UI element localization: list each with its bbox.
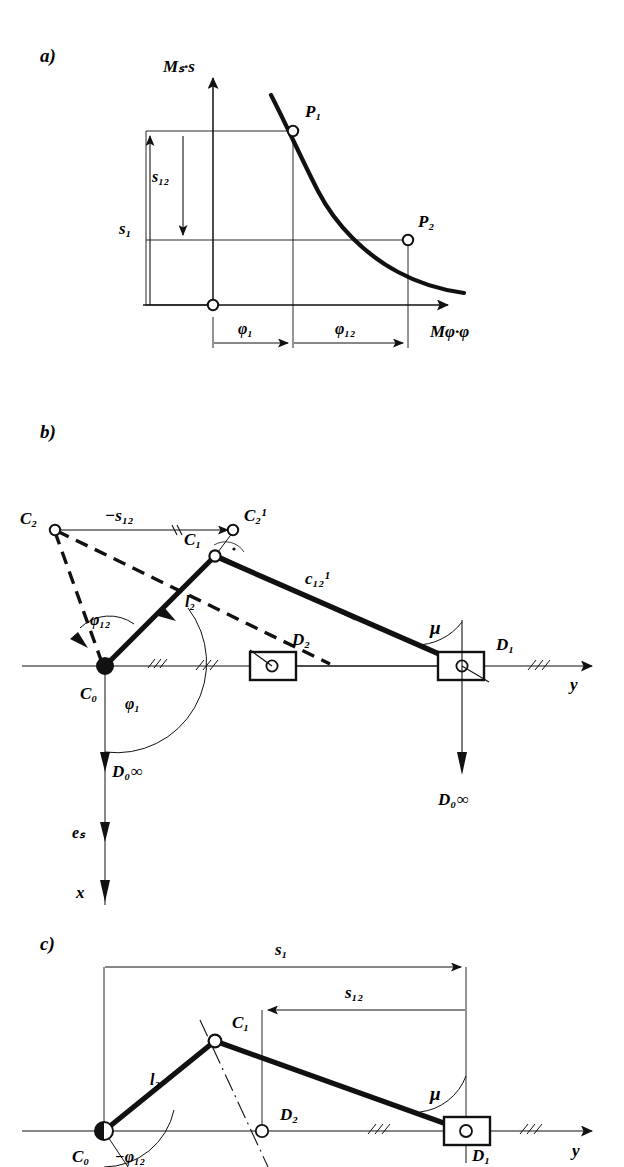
panel-c-pole-c0-label: C₀ xyxy=(72,1147,89,1166)
panel-c-slider-d1-label: D₁ xyxy=(471,1146,490,1165)
panel-b-link-l2-label: l₂ xyxy=(185,593,195,610)
panel-b-force-d0-right-label: D₀∞ xyxy=(437,790,468,809)
panel-a-point-p1-marker xyxy=(288,126,298,136)
panel-c-y-axis-label: y xyxy=(570,1141,580,1160)
panel-b-unit-vector-label: eₛ xyxy=(72,824,86,841)
panel-c-slider-d2-label: D₂ xyxy=(279,1105,298,1124)
panel-a-dim-phi1-label: φ₁ xyxy=(238,320,253,338)
panel-b-y-axis-label: y xyxy=(568,675,578,694)
panel-b-force-d0-left-label: D₀∞ xyxy=(111,762,142,781)
panel-a-y-axis-label: Mₛ·s xyxy=(162,57,195,76)
panel-b-dim-c12prime-label: c₁₂¹ xyxy=(305,569,330,588)
panel-b-angle-phi1-label: φ₁ xyxy=(125,695,140,713)
panel-b-x-axis-label: x xyxy=(75,883,85,902)
panel-a-dim-s1-label: s₁ xyxy=(118,219,132,238)
panel-c-label: c) xyxy=(40,933,55,955)
panel-b-point-c2-marker xyxy=(50,525,60,535)
panel-b-dim-minus-s12-label: −s₁₂ xyxy=(105,506,134,525)
panel-b-label: b) xyxy=(40,421,56,443)
panel-c-angle-minus-phi12-label: −φ₁₂ xyxy=(115,1148,145,1166)
panel-b-angle-mu-label: μ xyxy=(429,617,441,638)
panel-a-dim-phi12-label: φ₁₂ xyxy=(335,320,356,338)
panel-c-pole-c0-marker xyxy=(95,1122,113,1140)
panel-c-angle-mu-label: μ xyxy=(429,1083,441,1104)
panel-a-point-p2-marker xyxy=(403,235,413,245)
diagram-canvas: a) Mₛ·s Mφ·φ s₁ s₁₂ φ₁ φ₁₂ xyxy=(0,0,624,1167)
panel-a-origin-marker xyxy=(208,300,218,310)
panel-b-point-c1-marker xyxy=(209,550,220,561)
panel-a-dim-s12-label: s₁₂ xyxy=(151,168,169,185)
panel-b-point-c2-label: C₂ xyxy=(20,509,37,528)
figure-root: a) Mₛ·s Mφ·φ s₁ s₁₂ φ₁ φ₁₂ xyxy=(0,0,624,1167)
panel-b-point-c1-label: C₁ xyxy=(184,530,201,549)
panel-b-point-c2prime-marker xyxy=(228,525,238,535)
panel-b-slider-d1-label: D₁ xyxy=(495,635,514,654)
panel-b-angle-phi12-label: φ₁₂ xyxy=(90,611,111,629)
panel-a-point-p2-label: P₂ xyxy=(417,212,434,231)
panel-c-dim-s1-label: s₁ xyxy=(274,940,288,959)
panel-c-point-c1-marker xyxy=(209,1035,222,1048)
panel-c-slider-d2-pivot xyxy=(256,1125,268,1137)
panel-b-pole-c0-marker xyxy=(97,658,113,674)
panel-c-link-l2-label: l₂ xyxy=(150,1071,160,1088)
panel-a-label: a) xyxy=(40,45,56,67)
panel-b-slider-d2-label: D₂ xyxy=(291,630,310,649)
panel-b-point-c2prime-label: C₂¹ xyxy=(244,506,266,525)
panel-c-dim-s12-label: s₁₂ xyxy=(344,983,364,1002)
panel-c-slider-d1-pivot xyxy=(460,1125,472,1137)
panel-a-point-p1-label: P₁ xyxy=(304,102,321,121)
panel-a-x-axis-label: Mφ·φ xyxy=(429,322,469,341)
panel-c-point-c1-label: C₁ xyxy=(232,1013,249,1032)
panel-b-pole-c0-label: C₀ xyxy=(80,684,97,703)
panel-b-right-angle-dot-icon xyxy=(232,547,235,550)
